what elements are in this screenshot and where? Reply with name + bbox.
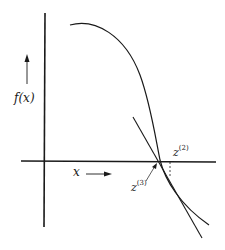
- newton-method-diagram: [0, 0, 225, 250]
- z2-base: z: [173, 146, 179, 159]
- z3-pointer: [146, 166, 155, 181]
- tangent-line: [133, 117, 202, 238]
- x-axis: [21, 161, 216, 162]
- x-axis-label-text: x: [73, 165, 80, 179]
- y-axis: [44, 13, 45, 227]
- x-arrowhead-icon: [104, 172, 112, 177]
- z2-label: z(2): [173, 147, 189, 158]
- z3-superscript: (3): [137, 179, 147, 187]
- z2-superscript: (2): [179, 144, 189, 152]
- function-curve: [70, 23, 209, 225]
- y-arrowhead-icon: [25, 54, 30, 62]
- x-axis-label: x: [73, 166, 80, 178]
- z3-pointer-arrowhead-icon: [152, 163, 157, 169]
- y-axis-label: f(x): [14, 92, 35, 104]
- z3-base: z: [131, 181, 137, 194]
- z3-label: z(3): [131, 182, 147, 193]
- y-axis-label-text: f(x): [14, 91, 35, 105]
